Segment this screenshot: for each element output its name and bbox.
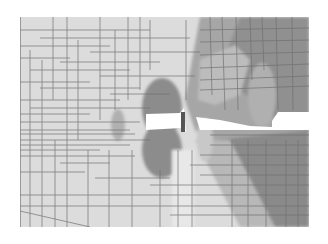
fe-contour-plot xyxy=(0,0,328,244)
bright-strip xyxy=(172,150,194,227)
crack-tip-edge xyxy=(181,112,185,132)
right-light-lobe xyxy=(248,63,276,127)
contour-field xyxy=(20,17,309,227)
left-small-lobe xyxy=(111,109,125,141)
